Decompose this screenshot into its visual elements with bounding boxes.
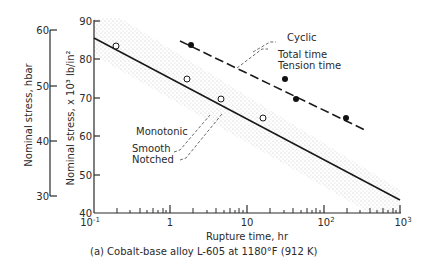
y-tick-label: 90 — [79, 16, 92, 27]
monotonic-label: Monotonic — [136, 126, 188, 137]
rupture-chart: 90 80 70 60 50 40 60 50 40 30 10-1 1 10 … — [0, 0, 430, 271]
y-tick-label: 50 — [79, 170, 92, 181]
total-time-label: Total time — [277, 49, 327, 60]
cyclic-label: Cyclic — [287, 32, 316, 43]
chart-caption: (a) Cobalt-base alloy L-605 at 1180°F (9… — [90, 246, 318, 257]
y2-tick-label: 30 — [36, 191, 49, 202]
smooth-label: Smooth — [132, 143, 171, 154]
y-tick-label: 60 — [79, 131, 92, 142]
x-tick-label: 10 — [241, 217, 254, 228]
y-tick-label: 80 — [79, 54, 92, 65]
x-tick-label: 103 — [394, 216, 411, 228]
y-tick-label: 70 — [79, 93, 92, 104]
x-tick-label: 10-1 — [80, 216, 100, 228]
minor-x-ticks — [117, 208, 396, 213]
x-tick-label: 1 — [167, 217, 173, 228]
y2-tick-label: 60 — [36, 25, 49, 36]
secondary-y-axis — [50, 30, 57, 196]
monotonic-fit-line — [94, 38, 400, 200]
y2-tick-label: 50 — [36, 81, 49, 92]
y-axis-title: Nominal stress, x 10³ lb/in² — [65, 50, 76, 185]
tension-time-label: Tension time — [277, 60, 341, 71]
x-axis-title: Rupture time, hr — [206, 231, 289, 242]
notched-label: Notched — [132, 154, 174, 165]
y2-axis-title: Nominal stress, hbar — [23, 62, 34, 166]
notched-scatter-band — [94, 18, 400, 213]
x-tick-label: 102 — [317, 216, 334, 228]
y2-tick-label: 40 — [36, 136, 49, 147]
